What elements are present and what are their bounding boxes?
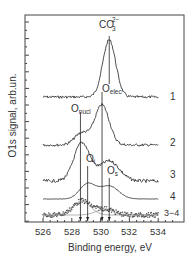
curve-label-3: 3 [170, 169, 176, 180]
x-tick-526: 526 [35, 226, 51, 237]
curve-label-3-minus-4: 3−4 [164, 208, 179, 218]
co3-sup: 2− [112, 16, 119, 23]
x-tick-532: 532 [121, 226, 137, 237]
spectra-curves [42, 40, 159, 218]
o-nucl-base: O [71, 103, 79, 114]
o-nucl-sub: nucl [79, 108, 91, 115]
o-i-label: Oi [86, 153, 95, 165]
co3-peak-label: CO 3 2− [99, 19, 114, 30]
o-s-base: O [107, 165, 115, 176]
x-tick-534: 534 [150, 226, 166, 237]
o-i-sub: i [94, 158, 95, 165]
o-s-label: Os [107, 165, 118, 177]
y-axis-ticks [25, 22, 29, 221]
curve-label-4: 4 [170, 191, 176, 202]
o-elec-base: O [102, 83, 110, 94]
o-i-base: O [86, 153, 94, 164]
x-axis-ticks [43, 218, 173, 222]
o-elec-label: Oelec [102, 83, 122, 95]
o-elec-sub: elec [110, 88, 122, 95]
peak-marker-lines [79, 36, 111, 221]
x-axis-label: Binding energy, eV [50, 242, 170, 253]
curve-label-2: 2 [170, 137, 176, 148]
o-nucl-label: Onucl [71, 103, 91, 115]
curve-label-1: 1 [170, 91, 176, 102]
o-s-sub: s [115, 170, 118, 177]
x-tick-528: 528 [64, 226, 80, 237]
co3-sub: 3 [112, 25, 116, 32]
x-tick-530: 530 [93, 226, 109, 237]
plot-frame [25, 15, 184, 222]
y-axis-label: O1s signal, arb.un. [7, 56, 18, 176]
